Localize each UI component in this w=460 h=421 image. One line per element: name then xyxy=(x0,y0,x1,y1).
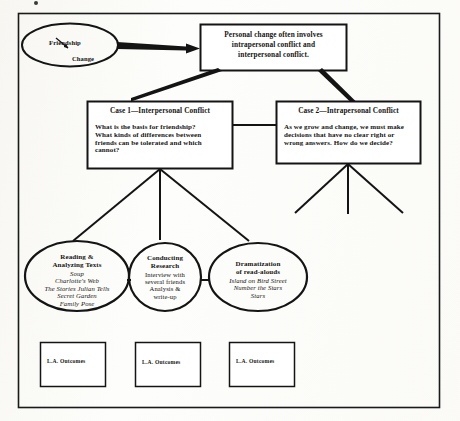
activity-2-item-3: Analysis & xyxy=(128,285,202,292)
case1-title: Case 1—Interpersonal Conflict xyxy=(88,107,232,120)
outcome-box-1 xyxy=(41,343,106,387)
case1-to-activity1-line xyxy=(73,169,160,241)
case1-body-line-4: cannot? xyxy=(95,147,227,155)
activity-1-text: Reading & Analyzing Texts Soup Charlotte… xyxy=(22,254,132,307)
activity-3-text: Dramatization of read-alouds Island on B… xyxy=(210,261,306,299)
case2-body: As we grow and change, we must make deci… xyxy=(284,124,416,147)
case2-fan-line-right xyxy=(348,164,403,213)
activity-1-item-2: Charlotte's Web xyxy=(22,277,132,285)
thesis-to-case2-connector xyxy=(318,68,356,104)
thesis-line-3: interpersonal conflict. xyxy=(201,51,346,59)
case1-to-activity3-line xyxy=(160,169,249,241)
seed-label-change: Change xyxy=(48,47,118,65)
activity-1-item-3: The Stories Julian Tells xyxy=(22,285,132,293)
seed-to-thesis-arrow xyxy=(117,42,200,54)
case2-body-line-3: wrong answers. How do we decide? xyxy=(284,140,416,148)
activity-2-item-1: Interview with xyxy=(128,271,202,278)
outcome-label-2: L.A. Outcomes xyxy=(142,359,181,365)
outcome-box-3 xyxy=(230,343,295,387)
activity-1-heading-2: Analyzing Texts xyxy=(22,262,132,270)
outcome-label-1: L.A. Outcomes xyxy=(47,358,86,364)
thesis-to-case1-connector xyxy=(131,68,222,102)
thesis-line-2: intrapersonal conflict and xyxy=(201,41,346,49)
activity-3-heading-2: of read-alouds xyxy=(210,269,306,277)
thesis-box-text: Personal change often involves intrapers… xyxy=(201,31,346,60)
case1-body: What is the basis for friendship? What k… xyxy=(95,124,227,155)
activity-1-item-1: Soup xyxy=(22,270,132,278)
activity-1-item-5: Family Pose xyxy=(22,300,132,308)
activity-2-text: Conducting Research Interview with sever… xyxy=(128,255,202,300)
case2-title: Case 2—Intrapersonal Conflict xyxy=(277,107,420,120)
activity-3-item-2: Number the Stars xyxy=(210,284,306,292)
activity-2-item-4: write-up xyxy=(128,293,202,300)
activity-2-heading-2: Research xyxy=(128,263,202,271)
outcome-label-3: L.A. Outcomes xyxy=(236,358,275,364)
activity-2-item-2: several friends xyxy=(128,278,202,285)
thesis-line-1: Personal change often involves xyxy=(201,31,346,39)
activity-1-item-4: Secret Garden xyxy=(22,292,132,300)
case2-fan-line-left xyxy=(295,164,348,213)
diagram-page: Friendship Change Personal change often … xyxy=(0,0,460,421)
activity-3-item-1: Island on Bird Street xyxy=(210,277,306,285)
activity-3-item-3: Stars xyxy=(210,292,306,300)
